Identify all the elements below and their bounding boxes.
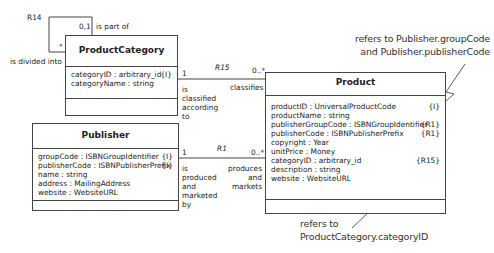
- note-category-ref: refers to ProductCategory.categoryID: [300, 217, 428, 243]
- class-name: ProductCategory: [66, 36, 177, 67]
- attribute: categoryName : string: [71, 79, 172, 88]
- attribute: productName : string: [271, 111, 440, 120]
- r14-phrase-top: is part of: [96, 22, 129, 31]
- attribute: website : WebsiteURL: [38, 188, 173, 197]
- class-publisher[interactable]: Publisher groupCode : ISBNGroupIdentifie…: [32, 123, 179, 211]
- attribute-compartment: categoryID : arbitrary_id{I} categoryNam…: [66, 67, 177, 99]
- r15-mult-right: 0..*: [252, 66, 265, 75]
- r1-mult-right: 0..*: [251, 148, 264, 157]
- attribute: copyright : Year: [271, 138, 440, 147]
- attribute: categoryID : arbitrary_id{I}: [71, 70, 172, 79]
- attribute: address : MailingAddress: [38, 179, 173, 188]
- r14-mult-top: 0,1: [79, 22, 91, 31]
- class-product-category[interactable]: ProductCategory categoryID : arbitrary_i…: [65, 35, 178, 116]
- class-name: Product: [266, 73, 445, 96]
- attribute: description : string: [271, 165, 440, 174]
- attribute: publisherCode : ISBNPublisherPrefix{I}: [38, 161, 173, 170]
- r1-mult-left: 1: [182, 148, 187, 157]
- r14-phrase-side: is divided into: [10, 57, 62, 66]
- attribute: groupCode : ISBNGroupIdentifier{I}: [38, 152, 173, 161]
- r1-phrase-left: is produced and marketed by: [182, 164, 217, 209]
- attribute: publisherCode : ISBNPublisherPrefix{R1}: [271, 129, 440, 138]
- attribute: productID : UniversalProductCode{I}: [271, 102, 440, 111]
- r1-name: R1: [217, 144, 227, 153]
- r15-mult-left: 1: [182, 69, 187, 78]
- r1-phrase-right: produces and markets: [228, 164, 262, 191]
- attribute-compartment: groupCode : ISBNGroupIdentifier{I} publi…: [33, 149, 178, 201]
- attribute: name : string: [38, 170, 173, 179]
- r15-phrase-left: is classified according to: [182, 85, 218, 121]
- r15-name: R15: [215, 63, 230, 72]
- r14-name: R14: [27, 13, 42, 22]
- attribute-compartment: productID : UniversalProductCode{I} prod…: [266, 96, 445, 200]
- attribute: website : WebsiteURL: [271, 174, 440, 183]
- r14-mult-side: *: [59, 42, 63, 51]
- note-publisher-ref: refers to Publisher.groupCode and Publis…: [330, 32, 490, 58]
- class-name: Publisher: [33, 124, 178, 149]
- r15-phrase-right: classifies: [230, 83, 263, 92]
- class-product[interactable]: Product productID : UniversalProductCode…: [265, 72, 446, 214]
- attribute: categoryID : arbitrary_id{R15}: [271, 156, 440, 165]
- attribute: unitPrice : Money: [271, 147, 440, 156]
- attribute: publisherGroupCode : ISBNGroupIdentifier…: [271, 120, 440, 129]
